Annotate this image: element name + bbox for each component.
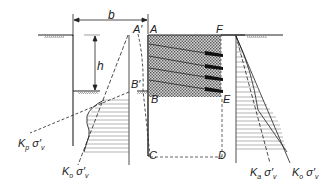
sigma-subscript: v [315, 173, 319, 180]
sigma-symbol: σ′ [32, 137, 41, 149]
sigma-subscript: v [85, 172, 89, 179]
label-a: A [150, 24, 157, 35]
label-h: h [97, 60, 104, 72]
label-ko-sigma-v-right: Ko σ′v [292, 167, 319, 180]
sigma-symbol: σ′ [264, 166, 273, 178]
label-a-prime: A′ [133, 24, 142, 35]
sigma-subscript: v [273, 173, 277, 180]
label-b-point: B [151, 94, 158, 105]
right-pressure-diagram [236, 35, 290, 163]
k-subscript: a [257, 173, 261, 180]
label-f: F [216, 24, 223, 35]
right-ground-surface [221, 35, 283, 38]
reinforced-soil-block [148, 35, 245, 97]
central-wall [137, 34, 150, 156]
k-subscript: o [69, 172, 73, 179]
sigma-symbol: σ′ [306, 166, 315, 178]
label-e: E [223, 94, 230, 105]
label-c: C [149, 150, 157, 161]
label-d: D [218, 150, 226, 161]
sigma-subscript: v [41, 144, 45, 151]
excavation-level [73, 91, 100, 94]
left-ground-surface [38, 35, 73, 38]
earth-pressure-diagram [0, 0, 335, 189]
failure-block-boundary [150, 97, 222, 157]
label-kp-sigma-v: Kp σ′v [18, 138, 45, 151]
label-b: b [108, 9, 115, 21]
sigma-symbol: σ′ [76, 165, 85, 177]
k-subscript: o [299, 173, 303, 180]
label-b-prime: B′ [131, 79, 140, 90]
k-subscript: p [25, 144, 29, 151]
label-ka-sigma-v: Ka σ′v [250, 167, 277, 180]
label-ko-sigma-v-left: Ko σ′v [62, 166, 89, 179]
